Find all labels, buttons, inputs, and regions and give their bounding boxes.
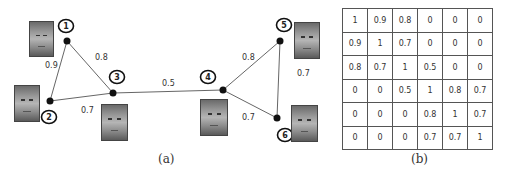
- matrix-cell: 0: [443, 56, 468, 80]
- matrix-cell: 0.7: [468, 103, 493, 127]
- matrix-cell: 1: [418, 79, 443, 103]
- matrix-caption: (b): [411, 152, 428, 166]
- node-number: 3: [114, 73, 120, 82]
- matrix-row: 0.910.7000: [343, 32, 493, 56]
- edge-weight-label: 0.9: [45, 61, 58, 70]
- matrix-cell: 1: [468, 126, 493, 150]
- edge-weight-label: 0.7: [297, 69, 310, 78]
- matrix-row: 000.510.80.7: [343, 79, 493, 103]
- matrix-cell: 0: [418, 32, 443, 56]
- node-5: [277, 38, 284, 45]
- node-number: 5: [281, 21, 287, 30]
- matrix-row: 0000.810.7: [343, 103, 493, 127]
- edge-3-4: [113, 90, 223, 93]
- matrix-cell: 1: [368, 32, 393, 56]
- matrix-cell: 0: [368, 79, 393, 103]
- node-number: 6: [282, 131, 288, 140]
- matrix-row: 0000.70.71: [343, 126, 493, 150]
- node-3: [110, 90, 117, 97]
- matrix-cell: 0.7: [393, 32, 418, 56]
- matrix-cell: 0.9: [368, 9, 393, 33]
- matrix-cell: 0.7: [368, 56, 393, 80]
- node-number: 1: [63, 22, 69, 31]
- node-6: [274, 115, 281, 122]
- matrix-cell: 0.8: [343, 56, 368, 80]
- matrix-cell: 0: [368, 126, 393, 150]
- node-number: 4: [205, 73, 211, 82]
- graph-caption: (a): [158, 152, 175, 166]
- matrix-cell: 1: [393, 56, 418, 80]
- matrix-cell: 0: [343, 126, 368, 150]
- edge-weight-label: 0.5: [162, 79, 175, 88]
- matrix-row: 10.90.8000: [343, 9, 493, 33]
- matrix-cell: 0.8: [443, 79, 468, 103]
- face-image-node-5: [294, 22, 320, 59]
- matrix-cell: 0: [343, 103, 368, 127]
- matrix-cell: 0.7: [418, 126, 443, 150]
- edge-1-3: [67, 41, 113, 93]
- matrix-cell: 0: [468, 32, 493, 56]
- matrix-cell: 1: [443, 103, 468, 127]
- edge-5-6: [277, 41, 280, 118]
- face-image-node-3: [101, 104, 128, 141]
- graph-panel: 0.90.80.70.50.80.70.7 123456 (a): [0, 0, 330, 178]
- matrix-cell: 0: [343, 79, 368, 103]
- matrix-cell: 0: [468, 56, 493, 80]
- matrix-cell: 0.5: [418, 56, 443, 80]
- edge-2-3: [50, 93, 113, 101]
- matrix-row: 0.80.710.500: [343, 56, 493, 80]
- node-4: [220, 87, 227, 94]
- node-2: [47, 98, 54, 105]
- edge-4-5: [223, 41, 280, 90]
- matrix-cell: 0: [368, 103, 393, 127]
- matrix-cell: 0.9: [343, 32, 368, 56]
- face-image-node-6: [291, 105, 318, 142]
- face-image-node-4: [200, 99, 228, 136]
- matrix-cell: 0.7: [443, 126, 468, 150]
- edge-weight-label: 0.7: [81, 106, 94, 115]
- face-image-node-1: [29, 21, 54, 57]
- edge-weight-label: 0.7: [242, 113, 255, 122]
- matrix-cell: 0: [393, 126, 418, 150]
- edge-weight-label: 0.8: [242, 53, 255, 62]
- edge-weight-label: 0.8: [95, 53, 108, 62]
- face-image-node-2: [14, 85, 40, 122]
- node-1: [64, 38, 71, 45]
- similarity-matrix: 10.90.80000.910.70000.80.710.500000.510.…: [342, 8, 493, 150]
- matrix-cell: 0.8: [393, 9, 418, 33]
- matrix-cell: 0: [468, 9, 493, 33]
- matrix-cell: 0.5: [393, 79, 418, 103]
- matrix-cell: 0: [393, 103, 418, 127]
- node-number: 2: [46, 113, 52, 122]
- matrix-cell: 0: [443, 32, 468, 56]
- matrix-cell: 0: [443, 9, 468, 33]
- matrix-cell: 0.7: [468, 79, 493, 103]
- matrix-cell: 0.8: [418, 103, 443, 127]
- matrix-cell: 1: [343, 9, 368, 33]
- matrix-cell: 0: [418, 9, 443, 33]
